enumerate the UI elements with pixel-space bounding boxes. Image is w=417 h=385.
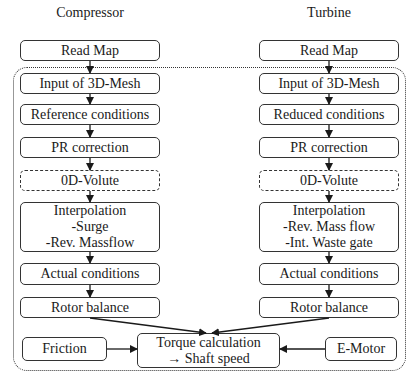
connector-arrows (0, 0, 417, 385)
